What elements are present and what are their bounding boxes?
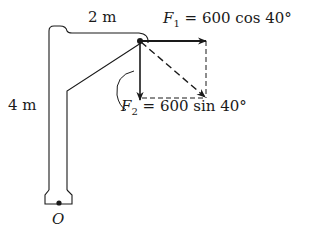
dimension-4m-label: 4 m <box>8 96 37 114</box>
force2-expression: = 600 sin 40° <box>138 97 247 115</box>
statics-diagram: O 2 m 4 m F1 = 600 cos 40° F2 = 600 sin … <box>0 0 309 235</box>
force1-label: F1 = 600 cos 40° <box>162 9 292 29</box>
origin-point <box>56 200 61 205</box>
force1-expression: = 600 cos 40° <box>180 9 292 27</box>
dimension-2m-label: 2 m <box>88 8 117 26</box>
resultant-force-arrow <box>141 42 205 97</box>
force2-label: F2 = 600 sin 40° <box>120 97 247 117</box>
force2-symbol: F <box>120 97 132 115</box>
force1-symbol: F <box>162 9 174 27</box>
origin-label: O <box>52 210 64 228</box>
